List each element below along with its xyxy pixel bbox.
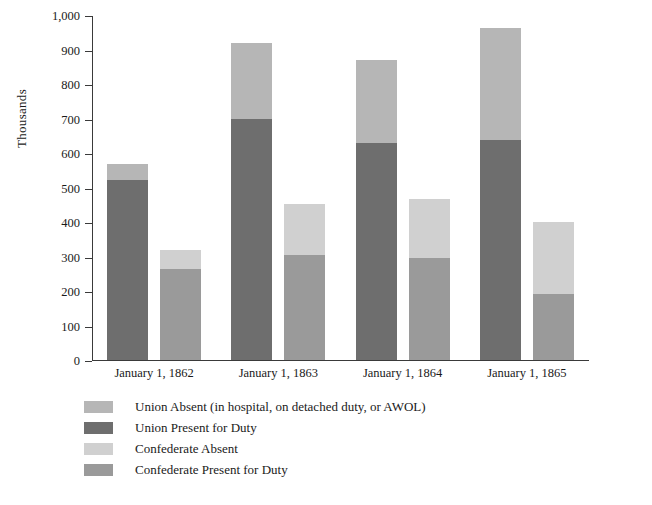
y-axis-tick-label: 800	[61, 76, 80, 94]
x-axis-label: January 1, 1864	[341, 366, 465, 381]
y-axis-tick: 400	[85, 223, 92, 224]
civil-war-troop-strength-chart: Thousands 1,0009008007006005004003002001…	[0, 0, 652, 505]
legend-item[interactable]: Union Absent (in hospital, on detached d…	[84, 396, 426, 417]
bar-segment[interactable]	[107, 164, 148, 180]
bar-confederate[interactable]	[533, 222, 574, 360]
bar-segment[interactable]	[480, 140, 521, 360]
bar-group	[341, 16, 465, 360]
y-axis-tick: 1,000	[85, 16, 92, 17]
x-axis-label: January 1, 1862	[92, 366, 216, 381]
legend-item-label: Union Absent (in hospital, on detached d…	[135, 399, 426, 414]
bar-union[interactable]	[231, 43, 272, 360]
bar-segment[interactable]	[356, 60, 397, 143]
y-axis-tick: 800	[85, 85, 92, 86]
bar-union[interactable]	[356, 60, 397, 360]
y-axis-tick: 300	[85, 258, 92, 259]
bar-union[interactable]	[480, 28, 521, 360]
y-axis-tick: 600	[85, 154, 92, 155]
bar-confederate[interactable]	[409, 199, 450, 360]
x-axis-label: January 1, 1865	[465, 366, 589, 381]
y-axis-tick: 500	[85, 189, 92, 190]
chart-legend: Union Absent (in hospital, on detached d…	[84, 396, 426, 480]
bar-segment[interactable]	[160, 250, 201, 270]
legend-swatch-icon	[84, 443, 113, 455]
bar-confederate[interactable]	[160, 250, 201, 360]
legend-item[interactable]: Union Present for Duty	[84, 417, 426, 438]
y-axis-tick: 100	[85, 327, 92, 328]
bar-segment[interactable]	[231, 43, 272, 119]
legend-item[interactable]: Confederate Absent	[84, 438, 426, 459]
bar-segment[interactable]	[107, 180, 148, 360]
bar-segment[interactable]	[533, 222, 574, 294]
legend-item-label: Confederate Present for Duty	[135, 462, 288, 477]
bar-segment[interactable]	[284, 255, 325, 360]
y-axis-tick-label: 0	[74, 352, 80, 370]
bar-segment[interactable]	[231, 119, 272, 360]
y-axis-tick-label: 200	[61, 283, 80, 301]
bar-segment[interactable]	[409, 258, 450, 360]
bar-group	[92, 16, 216, 360]
y-axis-tick: 200	[85, 292, 92, 293]
y-axis-title: Thousands	[14, 89, 30, 148]
y-axis-tick-label: 1,000	[52, 7, 80, 25]
bar-group	[216, 16, 340, 360]
plot-area: 1,0009008007006005004003002001000	[92, 16, 589, 361]
y-axis-tick-label: 600	[61, 145, 80, 163]
bar-segment[interactable]	[356, 143, 397, 360]
y-axis-tick-label: 400	[61, 214, 80, 232]
y-axis-tick-label: 900	[61, 42, 80, 60]
x-axis-label: January 1, 1863	[216, 366, 340, 381]
y-axis-tick-label: 100	[61, 318, 80, 336]
y-axis-tick-label: 700	[61, 111, 80, 129]
bar-segment[interactable]	[284, 204, 325, 255]
bar-group	[465, 16, 589, 360]
legend-item[interactable]: Confederate Present for Duty	[84, 459, 426, 480]
bar-confederate[interactable]	[284, 204, 325, 360]
legend-swatch-icon	[84, 401, 113, 413]
x-axis-line	[92, 360, 589, 361]
legend-item-label: Union Present for Duty	[135, 420, 257, 435]
bar-segment[interactable]	[409, 199, 450, 258]
bar-segment[interactable]	[533, 294, 574, 360]
legend-item-label: Confederate Absent	[135, 441, 238, 456]
legend-swatch-icon	[84, 464, 113, 476]
y-axis-tick: 700	[85, 120, 92, 121]
y-axis-tick-label: 500	[61, 180, 80, 198]
bar-segment[interactable]	[160, 269, 201, 360]
y-axis-tick: 0	[85, 361, 92, 362]
y-axis-tick: 900	[85, 51, 92, 52]
y-axis-tick-label: 300	[61, 249, 80, 267]
legend-swatch-icon	[84, 422, 113, 434]
bar-segment[interactable]	[480, 28, 521, 140]
bar-union[interactable]	[107, 164, 148, 360]
